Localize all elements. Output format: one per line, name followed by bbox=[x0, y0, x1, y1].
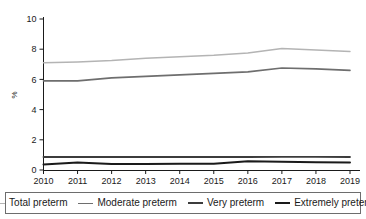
legend-line-icon bbox=[0, 203, 5, 204]
y-tick-label: 4 bbox=[31, 105, 36, 115]
legend-item-label: Very preterm bbox=[207, 198, 264, 208]
series-line-extremely-preterm bbox=[44, 161, 351, 164]
line-chart: % 0246810 201020112012201320142015201620… bbox=[0, 0, 366, 219]
legend-item-label: Moderate preterm bbox=[97, 198, 176, 208]
series-line-moderate-preterm bbox=[44, 68, 351, 81]
series-lines bbox=[44, 48, 351, 164]
x-tick-label: 2013 bbox=[136, 176, 156, 186]
x-tick-label: 2016 bbox=[238, 176, 258, 186]
x-tick-label: 2015 bbox=[204, 176, 224, 186]
x-tick-label: 2017 bbox=[272, 176, 292, 186]
y-tick-label: 2 bbox=[31, 135, 36, 145]
x-tick-label: 2010 bbox=[33, 176, 53, 186]
x-tick-label: 2019 bbox=[340, 176, 360, 186]
legend-item-total-preterm[interactable]: Total preterm bbox=[0, 198, 67, 208]
chart-legend: Total pretermModerate pretermVery preter… bbox=[5, 192, 361, 214]
y-axis-ticks: 0246810 bbox=[26, 14, 43, 175]
chart-canvas: % 0246810 201020112012201320142015201620… bbox=[0, 0, 366, 185]
legend-item-label: Total preterm bbox=[9, 198, 67, 208]
x-tick-label: 2018 bbox=[306, 176, 326, 186]
x-tick-label: 2012 bbox=[102, 176, 122, 186]
legend-line-icon bbox=[275, 202, 290, 204]
legend-item-moderate-preterm[interactable]: Moderate preterm bbox=[78, 198, 176, 208]
plot-area: % 0246810 201020112012201320142015201620… bbox=[0, 0, 366, 185]
y-axis-title: % bbox=[10, 91, 19, 98]
legend-line-icon bbox=[78, 203, 93, 204]
legend-item-extremely-preterm[interactable]: Extremely preterm bbox=[275, 198, 366, 208]
x-axis-ticks: 2010201120122013201420152016201720182019 bbox=[33, 170, 360, 185]
legend-item-very-preterm[interactable]: Very preterm bbox=[188, 198, 264, 208]
y-tick-label: 10 bbox=[26, 14, 36, 24]
x-tick-label: 2011 bbox=[68, 176, 87, 186]
y-tick-label: 0 bbox=[31, 165, 36, 175]
legend-line-icon bbox=[188, 202, 203, 204]
x-tick-label: 2014 bbox=[170, 176, 190, 186]
legend-item-label: Extremely preterm bbox=[294, 198, 366, 208]
y-tick-label: 8 bbox=[31, 44, 36, 54]
series-line-total-preterm bbox=[44, 48, 351, 62]
y-tick-label: 6 bbox=[31, 75, 36, 85]
